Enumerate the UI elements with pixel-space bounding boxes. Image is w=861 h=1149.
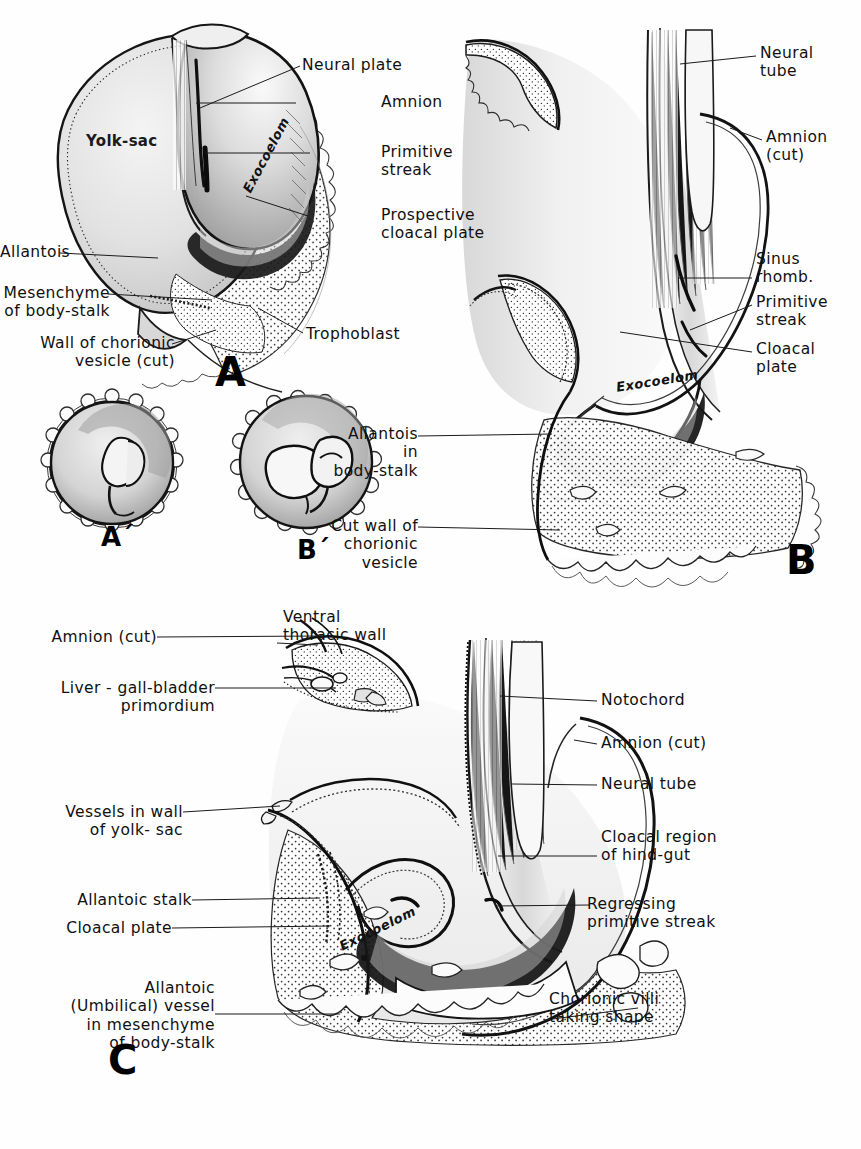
label-allantois-in-body-stalk: Allantois in body-stalk — [290, 425, 418, 480]
label-cloacal-plate-c: Cloacal plate — [0, 919, 172, 937]
label-notochord: Notochord — [601, 691, 685, 709]
label-sinus-rhomb: Sinus rhomb. — [756, 250, 814, 287]
label-amnion-cut: Amnion (cut) — [766, 128, 828, 165]
label-liver-gall-bladder-primordium: Liver - gall-bladder primordium — [0, 679, 215, 716]
label-chorionic-villi-taking-shape: Chorionic villi taking shape — [549, 990, 659, 1027]
label-exocoelom-c: Exocoelom — [337, 904, 418, 954]
label-neural-tube: Neural tube — [760, 44, 814, 81]
label-neural-plate: Neural plate — [302, 56, 402, 74]
panel-letter-a: A — [215, 352, 246, 392]
panel-letter-c: C — [108, 1040, 137, 1080]
label-primitive-streak: Primitive streak — [381, 143, 453, 180]
label-yolk-sac: Yolk-sac — [86, 132, 157, 150]
label-trophoblast: Trophoblast — [306, 325, 400, 343]
label-neural-tube-c: Neural tube — [601, 775, 697, 793]
embryology-figure-plate: Neural plate Amnion Primitive streak Pro… — [0, 0, 861, 1149]
label-allantois: Allantois — [0, 243, 60, 261]
label-cut-wall-of-chorionic-vesicle: Cut wall of chorionic vesicle — [290, 517, 418, 572]
label-cloacal-plate-b: Cloacal plate — [756, 340, 815, 377]
label-amnion-cut-right: Amnion (cut) — [601, 734, 706, 752]
label-prospective-cloacal-plate: Prospective cloacal plate — [381, 206, 485, 243]
panel-a-prime-drawing — [41, 389, 183, 531]
label-amnion: Amnion — [381, 93, 443, 111]
label-vessels-in-wall-of-yolk-sac: Vessels in wall of yolk- sac — [0, 803, 183, 840]
label-mesenchyme-of-body-stalk: Mesenchyme of body-stalk — [0, 284, 110, 321]
label-amnion-cut-left: Amnion (cut) — [0, 628, 157, 646]
label-exocoelom-b: Exocoelom — [615, 367, 699, 395]
label-primitive-streak-b: Primitive streak — [756, 293, 828, 330]
label-cloacal-region-of-hind-gut: Cloacal region of hind-gut — [601, 828, 717, 865]
label-regressing-primitive-streak: Regressing primitive streak — [587, 895, 716, 932]
label-allantoic-stalk: Allantoic stalk — [0, 891, 192, 909]
label-wall-of-chorionic-vesicle: Wall of chorionic vesicle (cut) — [0, 334, 175, 371]
label-exocoelom: Exocoelom — [240, 115, 292, 195]
panel-letter-a-prime: A´ — [101, 524, 134, 550]
panel-letter-b: B — [786, 540, 817, 580]
label-ventral-thoracic-wall: Ventral thoracic wall — [283, 608, 387, 645]
